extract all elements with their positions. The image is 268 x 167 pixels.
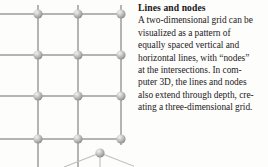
- caption-line: ating a three-dimensional grid.: [138, 101, 266, 113]
- caption-line: puter 3D, the lines and nodes: [138, 76, 266, 88]
- depth-line-left: [64, 153, 100, 167]
- grid-svg: [0, 0, 134, 167]
- caption-block: Lines and nodes A two-dimensional grid c…: [138, 2, 266, 114]
- grid-illustration: [0, 0, 134, 167]
- node-r3-c2: [73, 91, 82, 100]
- node-r2-c2: [73, 50, 82, 59]
- caption-line: A two-dimensional grid can be: [138, 14, 266, 26]
- caption-line: at the intersections. In com-: [138, 64, 266, 76]
- node-r2-c3: [116, 50, 125, 59]
- node-r4-c1: [33, 134, 42, 143]
- figure-page: Lines and nodes A two-dimensional grid c…: [0, 0, 268, 167]
- caption-title: Lines and nodes: [138, 2, 266, 14]
- depth-line-right: [100, 153, 134, 167]
- depth-node: [95, 148, 104, 157]
- caption-body: A two-dimensional grid can be visualized…: [138, 14, 266, 113]
- node-r1-c3: [116, 9, 125, 18]
- grid-nodes: [33, 9, 125, 143]
- node-r1-c2: [73, 9, 82, 18]
- node-r3-c3: [116, 91, 125, 100]
- node-r4-c2: [73, 134, 82, 143]
- caption-line: also extend through depth, cre-: [138, 89, 266, 101]
- node-r2-c1: [33, 50, 42, 59]
- node-r1-c1: [33, 9, 42, 18]
- caption-line: visualized as a pattern of: [138, 27, 266, 39]
- caption-line: horizontal lines, with “nodes”: [138, 52, 266, 64]
- horizontal-grid-lines: [0, 14, 121, 139]
- node-r3-c1: [33, 91, 42, 100]
- caption-line: equally spaced vertical and: [138, 39, 266, 51]
- node-r4-c3: [116, 134, 125, 143]
